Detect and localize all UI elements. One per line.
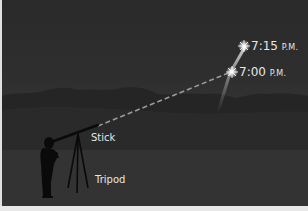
time-value: 7:15	[251, 39, 278, 53]
star-at-7-15	[238, 40, 250, 52]
time-suffix: P.M.	[282, 43, 298, 52]
time-label-7-00: 7:00 P.M.	[239, 65, 286, 79]
time-label-7-15: 7:15 P.M.	[251, 39, 298, 53]
night-sky-scene: 7:15 P.M. 7:00 P.M. Stick Tripod	[2, 0, 308, 206]
tripod-leg-center	[77, 134, 78, 193]
time-suffix: P.M.	[270, 69, 286, 78]
star-at-7-00	[226, 66, 238, 78]
stick-label: Stick	[91, 132, 115, 143]
tripod-label: Tripod	[95, 174, 125, 185]
time-value: 7:00	[239, 65, 266, 79]
bottom-border	[0, 206, 308, 211]
scene-illustration	[2, 0, 308, 206]
